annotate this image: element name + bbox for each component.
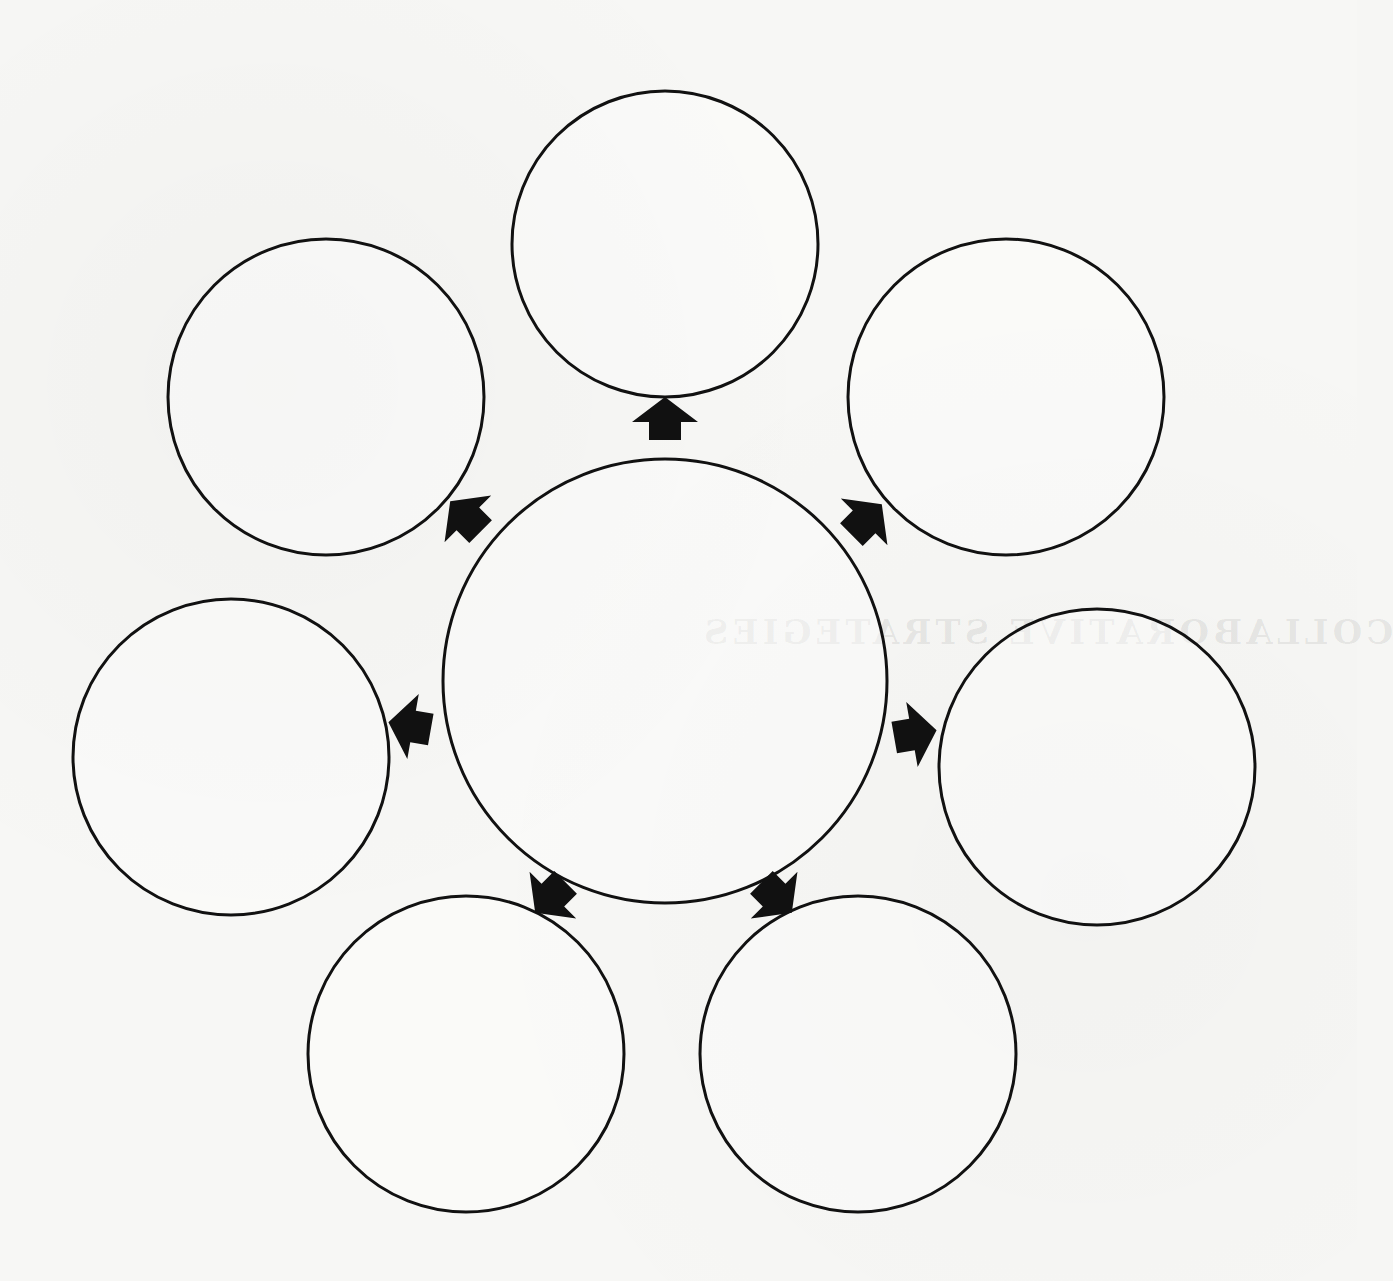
arrow-icon-to-right	[888, 698, 942, 770]
node-circle-upper-right[interactable]	[848, 239, 1164, 555]
arrow-icon-to-top	[632, 397, 698, 440]
arrow-icon-to-left	[383, 690, 437, 762]
node-circle-bottom-left[interactable]	[308, 896, 624, 1212]
node-circle-bottom-right[interactable]	[700, 896, 1016, 1212]
node-circle-right[interactable]	[939, 609, 1255, 925]
node-circle-left[interactable]	[73, 599, 389, 915]
node-circle-upper-left[interactable]	[168, 239, 484, 555]
center-node-circle[interactable]	[443, 459, 887, 903]
node-circle-top[interactable]	[512, 91, 818, 397]
center-node-group	[443, 459, 887, 903]
